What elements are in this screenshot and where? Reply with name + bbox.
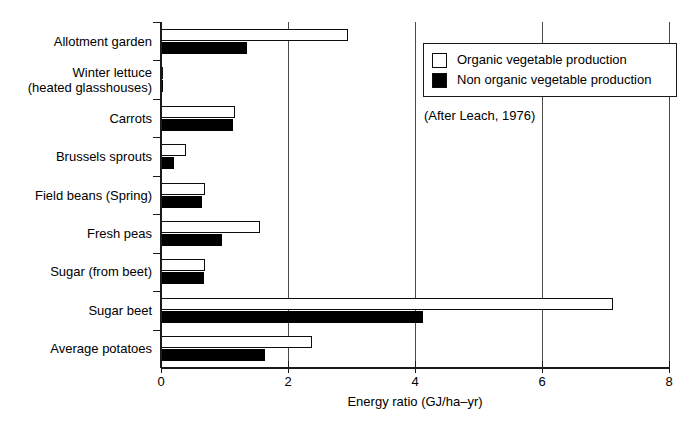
category-label-line: Average potatoes [0, 341, 152, 356]
legend-item-organic: Organic vegetable production [432, 50, 668, 70]
legend: Organic vegetable production Non organic… [423, 43, 677, 97]
bar-non-organic [161, 349, 265, 361]
bar-organic [161, 144, 186, 156]
legend-swatch-hollow-icon [432, 53, 447, 68]
x-axis-tick [161, 361, 162, 373]
bar-organic [161, 221, 260, 233]
category-label: Field beans (Spring) [0, 188, 152, 203]
category-label: Sugar (from beet) [0, 264, 152, 279]
bar-non-organic [161, 272, 204, 284]
bar-non-organic [161, 157, 174, 169]
category-label-line: Sugar (from beet) [0, 264, 152, 279]
y-axis-tick [153, 253, 162, 254]
y-axis-tick [153, 137, 162, 138]
category-label: Allotment garden [0, 34, 152, 49]
y-axis-tick [153, 60, 162, 61]
source-annotation: (After Leach, 1976) [424, 108, 535, 124]
bar-organic [161, 298, 613, 310]
y-axis-line [160, 22, 162, 368]
category-label-line: (heated glasshouses) [0, 80, 152, 95]
legend-swatch-filled-icon [432, 73, 447, 88]
y-axis-tick [153, 330, 162, 331]
bar-non-organic [161, 311, 423, 323]
legend-label-organic: Organic vegetable production [457, 52, 627, 68]
bar-non-organic [161, 196, 202, 208]
x-axis-tick [669, 361, 670, 373]
category-label-line: Brussels sprouts [0, 149, 152, 164]
bar-non-organic [161, 234, 222, 246]
x-axis-tick-label: 8 [665, 374, 672, 390]
category-label-line: Fresh peas [0, 226, 152, 241]
category-label-line: Carrots [0, 111, 152, 126]
chart-figure: 02468 Allotment gardenWinter lettuce(hea… [0, 0, 695, 428]
bar-non-organic [161, 42, 247, 54]
category-label: Average potatoes [0, 341, 152, 356]
x-axis-tick-label: 4 [411, 374, 418, 390]
category-label-line: Sugar beet [0, 303, 152, 318]
category-label-line: Allotment garden [0, 34, 152, 49]
category-label: Brussels sprouts [0, 149, 152, 164]
bar-organic [161, 183, 205, 195]
x-axis-tick-label: 0 [157, 374, 164, 390]
bar-organic [161, 259, 205, 271]
category-label-line: Field beans (Spring) [0, 188, 152, 203]
bar-organic [161, 106, 235, 118]
category-label: Carrots [0, 111, 152, 126]
category-label-line: Winter lettuce [0, 65, 152, 80]
x-axis-tick-label: 6 [538, 374, 545, 390]
category-label: Winter lettuce(heated glasshouses) [0, 65, 152, 95]
category-label: Sugar beet [0, 303, 152, 318]
legend-item-non-organic: Non organic vegetable production [432, 70, 668, 90]
y-axis-tick [153, 176, 162, 177]
x-axis-tick [542, 361, 543, 373]
legend-label-non-organic: Non organic vegetable production [457, 72, 651, 88]
y-axis-tick [153, 99, 162, 100]
category-label: Fresh peas [0, 226, 152, 241]
x-axis-tick [415, 361, 416, 373]
x-axis-title: Energy ratio (GJ/ha–yr) [161, 394, 669, 410]
y-axis-tick [153, 291, 162, 292]
bar-organic [161, 29, 348, 41]
y-axis-tick [153, 214, 162, 215]
x-axis-tick-label: 2 [284, 374, 291, 390]
y-axis-tick [153, 22, 162, 23]
bar-non-organic [161, 119, 233, 131]
x-axis-tick [288, 361, 289, 373]
bar-organic [161, 336, 312, 348]
